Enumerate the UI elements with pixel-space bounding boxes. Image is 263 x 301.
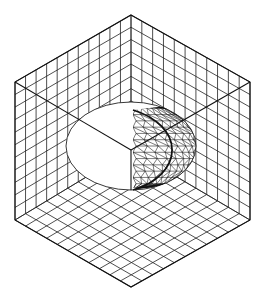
cube-sphere-diagram <box>0 0 263 301</box>
diagram-canvas <box>0 0 263 301</box>
